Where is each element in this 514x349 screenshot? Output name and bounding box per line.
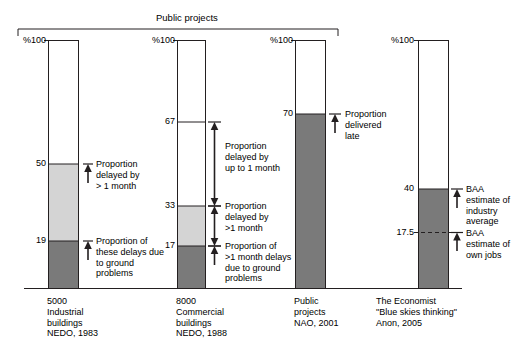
- bar-4-group: [414, 41, 463, 289]
- annotation-bar2-gt-1-month: Proportion delayed by >1 month: [225, 201, 269, 233]
- bar-1-segment-ground-problems: [49, 241, 78, 288]
- bar-3-arrow-delivered-late: [329, 114, 341, 133]
- bar-1-arrow-ground: [83, 241, 93, 260]
- annotation-bar1-ground-problems: Proportion of these delays due to ground…: [96, 236, 164, 279]
- bar-3-segment-delivered-late: [296, 114, 325, 288]
- bar-1-group: [44, 41, 93, 289]
- category-caption-4: The Economist "Blue skies thinking" Anon…: [376, 296, 457, 328]
- category-caption-1: 5000 Industrial buildings NEDO, 1983: [47, 296, 98, 339]
- bar-2-segment-ground-problems: [178, 246, 205, 288]
- category-caption-2: 8000 Commercial buildings NEDO, 1988: [176, 296, 227, 339]
- bar-4-tick-label-17-5: 17.5: [372, 227, 414, 238]
- bar-2-tick-label-33: 33: [137, 200, 175, 211]
- bar-4-arrow-own-jobs: [451, 233, 463, 252]
- bar-2-group: [173, 41, 221, 289]
- bar-2-tick-label-100: %100: [137, 35, 175, 46]
- bar-1-arrow-delayed: [83, 164, 93, 183]
- bar-4-tick-label-40: 40: [376, 183, 414, 194]
- bar-3-tick-label-70: 70: [255, 108, 293, 119]
- bar-1-tick-label-100: %100: [8, 35, 46, 46]
- bar-2-segment-delayed-gt-1-month: [178, 206, 205, 246]
- annotation-bar4-own-jobs: BAA estimate of own jobs: [466, 228, 510, 260]
- bar-2-tick-label-67: 67: [137, 116, 175, 127]
- annotation-bar4-industry-average: BAA estimate of industry average: [466, 184, 510, 227]
- bar-3-tick-label-100: %100: [255, 35, 293, 46]
- bar-1-segment-delayed-gt-1-month: [49, 164, 78, 241]
- bar-4-segment-baa-industry-average: [419, 189, 448, 288]
- bar-3-group: [291, 41, 341, 289]
- annotation-bar2-ground-problems: Proportion of >1 month delays due to gro…: [225, 241, 291, 284]
- bar-2-arrow-ground: [208, 246, 221, 265]
- bar-4-tick-label-100: %100: [376, 35, 414, 46]
- bar-4-arrow-industry-average: [451, 189, 463, 208]
- bar-1-tick-label-50: 50: [8, 158, 46, 169]
- bar-2-arrow-up-to-1-month: [208, 122, 221, 206]
- category-caption-3: Public projects NAO, 2001: [294, 296, 339, 328]
- chart-figure: Public projects: [0, 0, 514, 349]
- annotation-bar2-up-to-1-month: Proportion delayed by up to 1 month: [225, 141, 280, 173]
- bar-1-tick-label-19: 19: [8, 235, 46, 246]
- annotation-bar3-delivered-late: Proportion delivered late: [345, 109, 387, 141]
- annotation-bar1-delayed-gt-1-month: Proportion delayed by > 1 month: [96, 159, 140, 191]
- bar-2-arrow-gt-1-month: [208, 206, 221, 246]
